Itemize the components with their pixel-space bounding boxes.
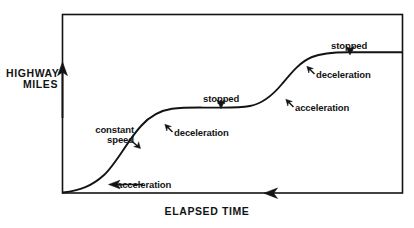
y-axis-title: HIGHWAY MILES (6, 68, 58, 90)
y-axis-arrow-icon (58, 62, 68, 118)
annotation-deceleration-2: deceleration (316, 70, 371, 80)
annotation-constant-speed-line-2: speed (78, 135, 134, 145)
y-axis-title-line-2: MILES (6, 79, 58, 90)
annotation-stopped-2: stopped (331, 41, 367, 51)
annotation-acceleration-2: acceleration (295, 103, 349, 113)
chart-canvas (0, 0, 414, 228)
annotation-constant-speed: constant speed (78, 125, 134, 145)
annotation-acceleration-1: acceleration (117, 180, 171, 190)
pointer-decel-1-icon (165, 124, 173, 132)
annotation-stopped-1: stopped (203, 94, 239, 104)
chart-figure: HIGHWAY MILES ELAPSED TIME constant spee… (0, 0, 414, 228)
x-axis-title: ELAPSED TIME (0, 206, 414, 217)
annotation-deceleration-1: deceleration (174, 128, 229, 138)
pointer-decel-2-icon (307, 66, 315, 74)
pointer-accel-2-icon (286, 99, 294, 107)
